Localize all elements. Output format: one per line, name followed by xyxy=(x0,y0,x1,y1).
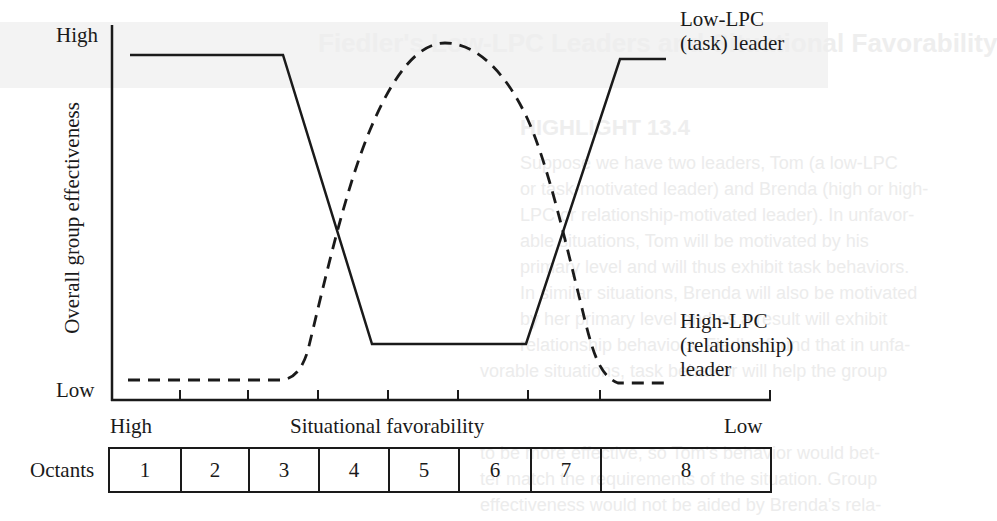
low-lpc-label-line2: (task) leader xyxy=(680,32,784,54)
high-lpc-label-line3: leader xyxy=(680,358,731,380)
octants-label: Octants xyxy=(30,459,94,481)
high-lpc-label-line1: High-LPC xyxy=(680,310,768,332)
low-lpc-label-line1: Low-LPC xyxy=(680,8,764,30)
octant-cell-8: 8 xyxy=(602,449,770,491)
high-lpc-label-line2: (relationship) xyxy=(680,334,793,356)
x-axis-title: Situational favorability xyxy=(290,415,484,437)
x-axis-high-label: High xyxy=(110,415,152,437)
high-lpc-relationship-leader-line xyxy=(128,43,668,383)
octant-cell-4: 4 xyxy=(320,449,390,491)
x-axis-low-label: Low xyxy=(724,415,763,437)
y-axis-low-label: Low xyxy=(56,379,95,401)
octants-table: 1 2 3 4 5 6 7 8 xyxy=(108,447,772,493)
low-lpc-task-leader-line xyxy=(130,55,666,344)
y-axis-title: Overall group effectiveness xyxy=(60,102,85,334)
octant-cell-6: 6 xyxy=(460,449,532,491)
octant-cell-3: 3 xyxy=(250,449,320,491)
octant-cell-2: 2 xyxy=(182,449,250,491)
octant-cell-7: 7 xyxy=(532,449,602,491)
x-axis-ticks xyxy=(180,390,770,400)
y-axis-high-label: High xyxy=(56,24,98,46)
octant-cell-1: 1 xyxy=(110,449,182,491)
octant-cell-5: 5 xyxy=(390,449,460,491)
